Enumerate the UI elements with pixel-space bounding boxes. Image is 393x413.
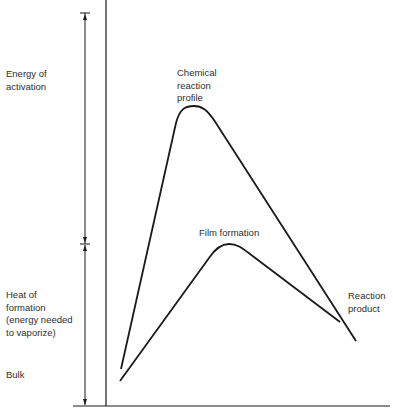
label-heat-of-formation: Heat of formation (energy needed to vapo… — [6, 289, 73, 339]
label-film-formation: Film formation — [199, 227, 259, 240]
heat-of-formation-arrow — [83, 245, 87, 405]
label-bulk: Bulk — [6, 369, 24, 382]
label-chemical-reaction-profile: Chemical reaction profile — [177, 67, 217, 105]
diagram-canvas — [0, 0, 393, 413]
label-energy-of-activation: Energy of activation — [6, 68, 47, 93]
activation-energy-arrow — [80, 13, 90, 244]
label-reaction-product: Reaction product — [348, 290, 386, 315]
